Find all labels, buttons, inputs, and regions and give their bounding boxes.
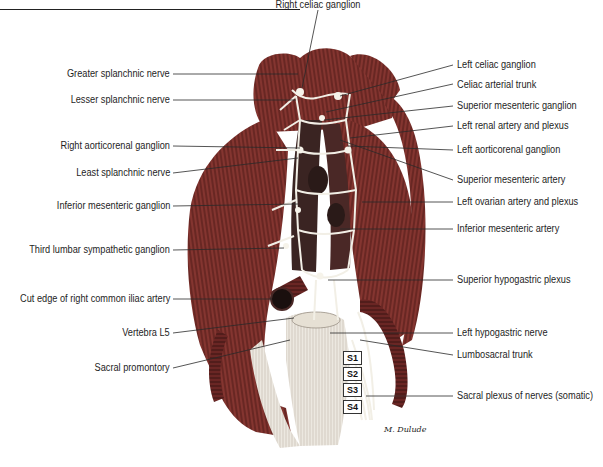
label-left-hypogastric-nerve: Left hypogastric nerve: [457, 327, 548, 339]
label-superior-mesenteric-artery: Superior mesenteric artery: [457, 174, 565, 186]
label-left-renal-artery-plexus: Left renal artery and plexus: [457, 120, 568, 132]
sacral-marker-s3: S3: [343, 383, 362, 397]
label-right-aorticorenal-ganglion: Right aorticorenal ganglion: [61, 140, 170, 152]
sacral-marker-s2: S2: [343, 367, 362, 381]
label-left-aorticorenal-ganglion: Left aorticorenal ganglion: [457, 144, 560, 156]
cut-right-common-iliac-artery: [270, 276, 308, 310]
label-superior-mesenteric-ganglion: Superior mesenteric ganglion: [457, 100, 577, 112]
label-lumbosacral-trunk: Lumbosacral trunk: [457, 349, 533, 361]
label-cut-edge-right-common-iliac-artery: Cut edge of right common iliac artery: [20, 293, 170, 305]
label-sacral-promontory: Sacral promontory: [95, 362, 170, 374]
sacral-marker-s1: S1: [343, 351, 362, 365]
label-vertebra-l5: Vertebra L5: [122, 327, 170, 339]
label-least-splanchnic-nerve: Least splanchnic nerve: [76, 167, 170, 179]
label-lesser-splanchnic-nerve: Lesser splanchnic nerve: [71, 94, 170, 106]
label-celiac-arterial-trunk: Celiac arterial trunk: [457, 79, 536, 91]
label-left-ovarian-artery-plexus: Left ovarian artery and plexus: [457, 196, 578, 208]
label-superior-hypogastric-plexus: Superior hypogastric plexus: [457, 274, 571, 286]
label-inferior-mesenteric-artery: Inferior mesenteric artery: [457, 223, 559, 235]
label-sacral-plexus-somatic: Sacral plexus of nerves (somatic): [457, 390, 593, 402]
label-greater-splanchnic-nerve: Greater splanchnic nerve: [67, 68, 170, 80]
right-psoas-quadratus-muscle: [188, 118, 292, 438]
label-right-celiac-ganglion: Right celiac ganglion: [270, 0, 366, 11]
sacral-marker-s4: S4: [343, 400, 362, 414]
artist-signature: M. Dulude: [384, 425, 426, 434]
label-third-lumbar-sympathetic-ganglion: Third lumbar sympathetic ganglion: [29, 244, 170, 256]
label-left-celiac-ganglion: Left celiac ganglion: [457, 59, 536, 71]
label-inferior-mesenteric-ganglion: Inferior mesenteric ganglion: [56, 200, 170, 212]
